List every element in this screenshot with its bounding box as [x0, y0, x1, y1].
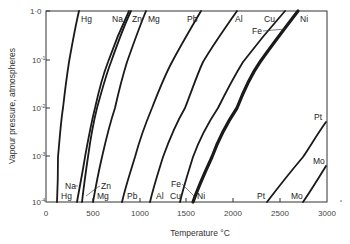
label-pt-bottom: Pt	[257, 191, 266, 201]
top-labels: Hg Na Zn Mg Pb Al Cu Fe Ni	[81, 14, 308, 36]
x-tick-label: 2000	[224, 209, 242, 218]
label-al-bottom: Al	[156, 191, 164, 201]
label-fe-bottom: Fe	[171, 179, 181, 189]
x-axis-label: Temperature °C	[170, 228, 230, 238]
x-tick-label: 2500	[271, 209, 289, 218]
label-pt-right: Pt	[314, 112, 323, 122]
x-tick-label: 1000	[131, 209, 149, 218]
curve-mo	[303, 166, 326, 202]
vapour-pressure-chart: 1·0 10-1 10-2 10-3 10-4 Vapour pressure,…	[0, 0, 350, 244]
x-axis: 0 500 1000 1500 2000 2500 3000 Temperatu…	[44, 198, 337, 238]
y-axis: 1·0 10-1 10-2 10-3 10-4 Vapour pressure,…	[7, 7, 50, 207]
curve-hg	[57, 11, 79, 202]
label-hg-top: Hg	[81, 14, 92, 24]
label-cu-top: Cu	[264, 14, 275, 24]
label-na-top: Na	[112, 14, 123, 24]
label-pb-bottom: Pb	[127, 191, 138, 201]
x-tick-label: 500	[86, 209, 100, 218]
label-ni-top: Ni	[300, 14, 308, 24]
label-fe-top: Fe	[252, 26, 262, 36]
curve-zn	[82, 11, 131, 202]
label-zn-top: Zn	[132, 14, 142, 24]
curve-al	[150, 11, 237, 202]
label-mo-bottom: Mo	[291, 191, 303, 201]
label-al-top: Al	[235, 14, 243, 24]
x-tick-label: 1500	[177, 209, 195, 218]
curve-fe-ni	[193, 11, 298, 202]
y-tick-label: 10-3	[32, 151, 46, 161]
y-tick-label: 10-2	[32, 103, 46, 113]
label-zn-bottom: Zn	[101, 181, 111, 191]
y-axis-label: Vapour pressure, atmospheres	[7, 48, 17, 164]
stray-dot	[340, 200, 342, 202]
y-tick-label: 10-1	[32, 55, 46, 65]
x-tick-label: 3000	[318, 209, 336, 218]
label-mo-right: Mo	[313, 156, 325, 166]
label-cu-bottom: Cu	[170, 191, 181, 201]
label-na-bottom: Na	[65, 181, 76, 191]
x-tick-label: 0	[44, 209, 49, 218]
label-ni-bottom: Ni	[197, 191, 205, 201]
curves	[57, 11, 326, 202]
y-tick-label: 10-4	[32, 197, 46, 207]
label-hg-bottom: Hg	[61, 191, 72, 201]
label-mg-top: Mg	[148, 14, 160, 24]
y-tick-label: 1·0	[30, 7, 42, 16]
label-mg-bottom: Mg	[97, 191, 109, 201]
curve-pb	[122, 11, 201, 202]
curve-cu	[180, 11, 285, 202]
label-pb-top: Pb	[187, 14, 198, 24]
